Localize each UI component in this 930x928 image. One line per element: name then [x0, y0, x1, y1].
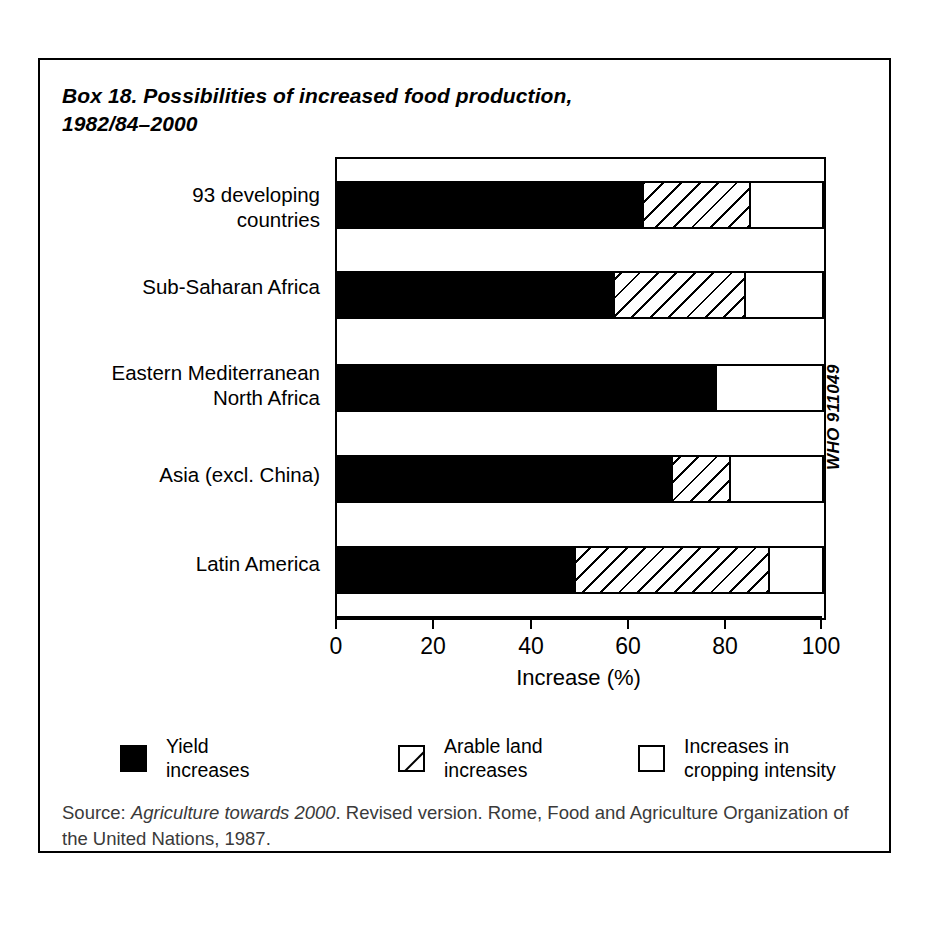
legend-item-yield: Yield increases: [120, 735, 249, 783]
bar-segment-cropping: [731, 455, 824, 503]
box-title-line-2: 1982/84–2000: [62, 110, 702, 138]
x-tick-label-0: 0: [330, 633, 343, 660]
x-tick-label-60: 60: [615, 633, 641, 660]
legend-label-yield: Yield increases: [166, 735, 249, 783]
x-tick-0: [335, 616, 337, 629]
x-tick-20: [432, 616, 434, 629]
bar-segment-cropping: [751, 181, 824, 229]
x-axis: 0 20 40 60 80 100: [335, 616, 822, 618]
bar-segment-arable: [644, 181, 751, 229]
chart-page: Box 18. Possibilities of increased food …: [0, 0, 930, 928]
category-label-eastern-mediterranean: Eastern Mediterranean North Africa: [52, 361, 320, 410]
bar-segment-yield: [337, 271, 615, 319]
x-tick-label-20: 20: [420, 633, 446, 660]
legend-item-cropping: Increases in cropping intensity: [638, 735, 836, 783]
bar-segment-arable: [576, 546, 771, 594]
plot-area: [335, 157, 826, 620]
category-label-latin-america: Latin America: [52, 552, 320, 577]
x-tick-80: [724, 616, 726, 629]
x-axis-title: Increase (%): [335, 665, 822, 691]
bar-asia-excl-china: [337, 455, 824, 503]
legend-label-cropping: Increases in cropping intensity: [684, 735, 836, 783]
bar-segment-yield: [337, 181, 644, 229]
legend-label-arable: Arable land increases: [444, 735, 543, 783]
bar-segment-cropping: [770, 546, 824, 594]
bar-latin-america: [337, 546, 824, 594]
x-tick-60: [627, 616, 629, 629]
x-tick-40: [530, 616, 532, 629]
x-tick-label-100: 100: [802, 633, 840, 660]
chart-legend: Yield increases Arable land increases In…: [120, 727, 860, 787]
bar-93-developing-countries: [337, 181, 824, 229]
legend-swatch-hatched-icon: [398, 745, 425, 772]
bar-segment-yield: [337, 455, 673, 503]
source-note: Source: Agriculture towards 2000. Revise…: [62, 800, 852, 853]
box-title-line-1: Box 18. Possibilities of increased food …: [62, 82, 702, 110]
bar-segment-arable: [615, 271, 746, 319]
category-label-asia-excl-china: Asia (excl. China): [52, 463, 320, 488]
bar-segment-cropping: [746, 271, 824, 319]
bar-segment-yield: [337, 364, 717, 412]
legend-swatch-solid-icon: [120, 745, 147, 772]
category-label-93-developing-countries: 93 developing countries: [52, 183, 320, 232]
category-label-sub-saharan-africa: Sub-Saharan Africa: [52, 275, 320, 300]
x-tick-label-80: 80: [712, 633, 738, 660]
bar-segment-arable: [673, 455, 731, 503]
x-tick-100: [820, 616, 822, 629]
bar-eastern-mediterranean-north-africa: [337, 364, 824, 412]
source-title: Agriculture towards 2000: [131, 802, 336, 823]
bar-segment-yield: [337, 546, 576, 594]
bar-sub-saharan-africa: [337, 271, 824, 319]
bar-segment-cropping: [717, 364, 824, 412]
box-title: Box 18. Possibilities of increased food …: [62, 82, 702, 139]
who-code-label: WHO 911049: [824, 364, 844, 470]
bars-container: [337, 159, 824, 618]
legend-item-arable: Arable land increases: [398, 735, 543, 783]
x-tick-label-40: 40: [518, 633, 544, 660]
legend-swatch-empty-icon: [638, 745, 665, 772]
source-prefix: Source:: [62, 802, 131, 823]
